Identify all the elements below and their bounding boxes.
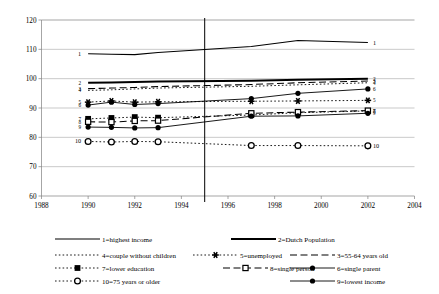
marker-series-9-point-3 xyxy=(155,125,160,130)
marker-series-10-point-0 xyxy=(85,139,91,145)
series-markers-group xyxy=(85,86,371,148)
x-axis-label-2000: 2000 xyxy=(314,202,329,210)
y-axis-tick-labels: 60708090100110120 xyxy=(26,17,37,201)
legend-item-5[interactable]: 5=unemployed xyxy=(193,252,283,260)
legend-label-8: 8=single person xyxy=(270,265,315,273)
legend-label-1: 1=highest income xyxy=(102,236,152,244)
legend-label-9: 9=lowest income xyxy=(337,278,385,286)
x-axis-label-1998: 1998 xyxy=(267,202,282,210)
x-axis-label-1992: 1992 xyxy=(128,202,143,210)
legend-marker-6 xyxy=(310,265,315,270)
legend-marker-8 xyxy=(243,265,248,270)
marker-series-9-point-5 xyxy=(295,113,300,118)
legend-marker-10 xyxy=(75,278,81,284)
marker-series-6-point-0 xyxy=(86,102,91,107)
marker-series-6-point-3 xyxy=(155,101,160,106)
line-chart: 60708090100110120 1988199019921994199619… xyxy=(0,0,439,294)
series-tag-right-1: 1 xyxy=(373,39,376,46)
series-tag-right-5: 5 xyxy=(373,97,376,103)
legend-item-2[interactable]: 2=Dutch Population xyxy=(231,236,335,244)
x-axis-tickmarks xyxy=(42,196,415,199)
y-axis-label-90: 90 xyxy=(29,105,37,113)
legend-item-1[interactable]: 1=highest income xyxy=(55,236,152,244)
marker-series-10-point-4 xyxy=(248,143,254,149)
x-axis-label-1988: 1988 xyxy=(34,202,49,210)
marker-series-9-point-6 xyxy=(365,111,370,116)
y-axis-label-60: 60 xyxy=(29,193,37,201)
legend-marker-9 xyxy=(310,278,315,283)
y-axis-label-100: 100 xyxy=(26,75,37,83)
legend-label-3: 3=55-64 years old xyxy=(337,252,388,260)
marker-series-6-point-4 xyxy=(249,96,254,101)
marker-series-5-point-5 xyxy=(295,98,302,104)
legend-item-10[interactable]: 10=75 years or older xyxy=(55,278,161,286)
marker-series-5-point-6 xyxy=(365,98,372,104)
marker-series-10-point-2 xyxy=(132,139,138,145)
marker-series-10-point-6 xyxy=(365,143,371,149)
marker-series-10-point-1 xyxy=(109,139,115,145)
marker-series-8-point-0 xyxy=(86,119,91,124)
series-line-1 xyxy=(88,41,368,55)
x-axis-label-2002: 2002 xyxy=(361,202,376,210)
series-tag-left-9: 9 xyxy=(79,124,82,130)
x-axis-label-2004: 2004 xyxy=(407,202,422,210)
y-axis-label-110: 110 xyxy=(26,46,37,54)
marker-series-9-point-0 xyxy=(86,124,91,129)
marker-series-9-point-2 xyxy=(132,125,137,130)
legend-label-7: 7=lower education xyxy=(102,265,155,273)
marker-series-6-point-5 xyxy=(295,91,300,96)
marker-series-10-point-3 xyxy=(155,139,161,145)
x-axis-label-1996: 1996 xyxy=(221,202,236,210)
series-line-4 xyxy=(88,83,368,91)
marker-series-9-point-4 xyxy=(249,114,254,119)
y-axis-label-120: 120 xyxy=(26,17,37,25)
series-line-8 xyxy=(88,111,368,122)
legend-item-9[interactable]: 9=lowest income xyxy=(290,278,385,286)
legend-item-8[interactable]: 8=single person xyxy=(223,265,315,273)
x-axis-label-1994: 1994 xyxy=(174,202,189,210)
marker-series-6-point-1 xyxy=(109,100,114,105)
gridlines-group xyxy=(39,20,415,196)
marker-series-8-point-3 xyxy=(155,118,160,123)
marker-series-9-point-1 xyxy=(109,125,114,130)
legend-label-10: 10=75 years or older xyxy=(102,278,161,286)
legend-marker-7 xyxy=(75,265,81,271)
series-tag-left-10: 10 xyxy=(75,137,81,144)
series-line-6 xyxy=(88,89,368,105)
series-tag-right-4: 4 xyxy=(373,80,376,86)
series-line-10 xyxy=(88,141,368,145)
x-axis-label-1990: 1990 xyxy=(81,202,96,210)
series-number-tags: 1122334455667788991010 xyxy=(75,39,379,149)
chart-legend: 1=highest income2=Dutch Population4=coup… xyxy=(55,236,388,286)
series-tag-right-10: 10 xyxy=(373,142,379,149)
series-tag-right-6: 6 xyxy=(373,86,376,92)
legend-label-4: 4=couple without children xyxy=(102,252,176,260)
y-axis-label-80: 80 xyxy=(29,134,37,142)
legend-label-5: 5=unemployed xyxy=(240,252,283,260)
legend-item-7[interactable]: 7=lower education xyxy=(55,265,155,273)
y-axis-label-70: 70 xyxy=(29,163,37,171)
chart-container: 60708090100110120 1988199019921994199619… xyxy=(0,0,439,294)
legend-marker-5 xyxy=(212,252,219,258)
marker-series-6-point-2 xyxy=(132,102,137,107)
series-paths-group xyxy=(88,41,368,146)
legend-label-2: 2=Dutch Population xyxy=(278,236,335,244)
x-axis-tick-labels: 198819901992199419961998200020022004 xyxy=(34,202,422,210)
legend-item-3[interactable]: 3=55-64 years old xyxy=(290,252,388,260)
marker-series-8-point-1 xyxy=(109,119,114,124)
series-line-5 xyxy=(88,100,368,102)
marker-series-10-point-5 xyxy=(295,143,301,149)
legend-label-6: 6=single parent xyxy=(337,265,380,273)
marker-series-8-point-2 xyxy=(132,118,137,123)
series-tag-right-9: 9 xyxy=(373,110,376,116)
series-tag-left-4: 4 xyxy=(79,87,82,93)
marker-series-6-point-6 xyxy=(365,86,370,91)
legend-item-4[interactable]: 4=couple without children xyxy=(55,252,176,260)
series-tag-left-1: 1 xyxy=(78,50,81,57)
series-tag-left-6: 6 xyxy=(79,102,82,108)
